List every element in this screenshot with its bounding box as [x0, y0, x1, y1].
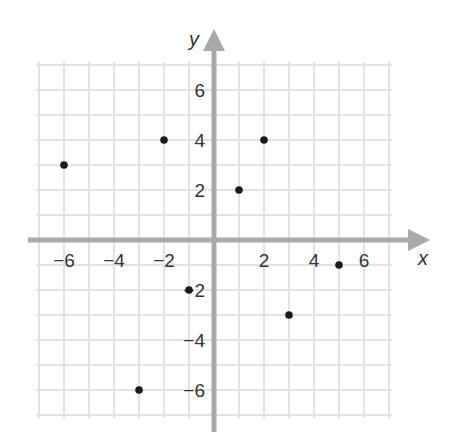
- x-tick-label: −2: [153, 250, 175, 271]
- data-point: [160, 136, 168, 144]
- data-point: [260, 136, 268, 144]
- y-tick-label: 6: [194, 80, 205, 101]
- data-point: [335, 261, 343, 269]
- x-axis-label: x: [417, 247, 429, 269]
- y-tick-label: −4: [183, 330, 205, 351]
- y-axis-arrow-icon: [203, 29, 225, 51]
- y-tick-label: 4: [194, 130, 205, 151]
- coordinate-plane: x y −6−4−2246642−2−4−6: [0, 0, 452, 437]
- y-tick-label: −6: [183, 380, 205, 401]
- y-axis-label: y: [187, 28, 200, 50]
- x-tick-label: 2: [259, 250, 270, 271]
- data-point: [60, 161, 68, 169]
- x-tick-label: −4: [103, 250, 125, 271]
- y-tick-label: 2: [194, 180, 205, 201]
- data-point: [285, 311, 293, 319]
- data-point: [185, 286, 193, 294]
- data-point: [135, 386, 143, 394]
- x-tick-label: −6: [53, 250, 75, 271]
- x-tick-label: 4: [309, 250, 320, 271]
- x-tick-label: 6: [359, 250, 370, 271]
- data-point: [235, 186, 243, 194]
